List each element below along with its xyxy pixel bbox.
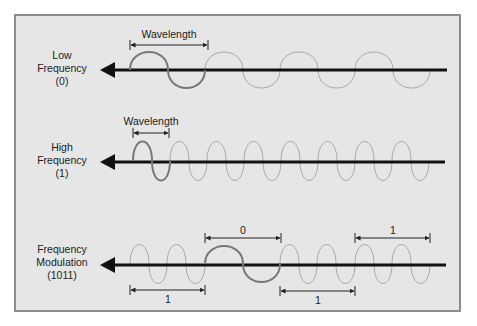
bit-label: 1 [315,294,321,306]
arrowhead-icon [100,154,115,170]
bit-marker-segment-2: 0 [205,224,281,243]
bit-marker-segment-1: 1 [130,285,205,305]
bit-marker-segment-4: 1 [355,224,430,243]
bit-label: 1 [390,224,396,236]
arrowhead-icon [100,257,115,273]
high-frequency-row: Wavelength [100,115,445,181]
arrowhead-icon [100,62,115,78]
frequency-modulation-row: 1 0 1 1 [100,224,446,306]
wavelength-label: Wavelength [141,28,196,40]
wavelength-dimension: Wavelength [123,115,178,138]
bit-marker-segment-3: 1 [280,286,355,306]
wavelength-dimension: Wavelength [130,28,208,50]
wavelength-label: Wavelength [123,115,178,127]
low-frequency-row: Wavelength [100,28,447,88]
bit-label: 0 [240,224,246,236]
diagram-canvas: Wavelength Wavelength 1 [0,0,477,326]
bit-label: 1 [165,293,171,305]
